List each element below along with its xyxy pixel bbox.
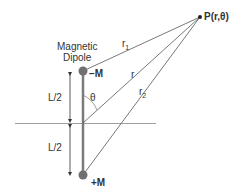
r1-label: r1 [122,38,129,53]
positive-pole [79,171,88,180]
diagram-graphics [0,0,246,196]
theta-label: θ [90,92,96,103]
half-length-top-label: L/2 [48,92,62,103]
negative-pole-label: −M [89,68,103,79]
point-label: P(r,θ) [204,11,229,22]
half-length-bottom-label: L/2 [48,142,62,153]
title-line1: Magnetic [57,41,98,52]
point-p [198,15,202,19]
magnetic-dipole-diagram: P(r,θ) Magnetic Dipole −M +M r1 r r2 θ L… [0,0,246,196]
r2-label: r2 [139,86,146,101]
r-label: r [131,69,134,80]
positive-pole-label: +M [91,177,105,188]
line-r1 [83,17,200,71]
negative-pole [79,67,88,76]
title-line2: Dipole [63,52,91,63]
